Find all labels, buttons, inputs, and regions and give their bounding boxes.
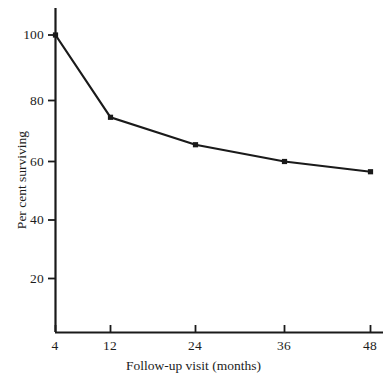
y-tick-label-100: 100 <box>0 27 44 43</box>
y-axis-title: Per cent surviving <box>14 100 30 260</box>
x-axis-ticks <box>56 325 371 332</box>
data-point-marker <box>282 159 287 164</box>
x-tick-label-48: 48 <box>363 338 377 354</box>
x-tick-label-12: 12 <box>103 338 117 354</box>
x-tick-label-36: 36 <box>277 338 291 354</box>
data-series-line <box>56 35 371 172</box>
survival-curve-chart: 100 80 60 40 20 4 12 24 36 48 Per cent s… <box>0 0 387 381</box>
data-point-marker <box>53 32 58 37</box>
data-point-marker <box>108 115 113 120</box>
chart-plot-area <box>0 0 387 381</box>
x-tick-label-4: 4 <box>52 338 59 354</box>
x-tick-label-24: 24 <box>188 338 202 354</box>
x-axis-title: Follow-up visit (months) <box>0 358 387 374</box>
data-point-marker <box>368 169 373 174</box>
y-axis-ticks <box>48 35 55 279</box>
y-tick-label-20: 20 <box>0 271 44 287</box>
data-point-marker <box>193 142 198 147</box>
